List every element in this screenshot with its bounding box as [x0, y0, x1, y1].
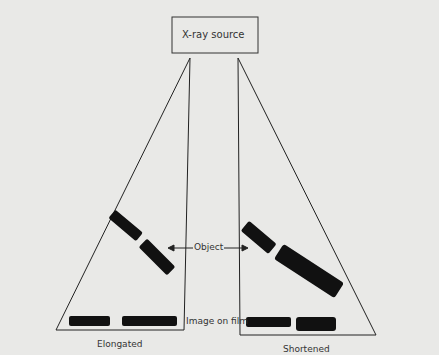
left-object: [108, 210, 175, 276]
object-label: Object: [194, 242, 223, 252]
xray-source-label: X-ray source: [182, 29, 245, 40]
left-film-image: [69, 316, 177, 326]
diagram-canvas: [0, 0, 439, 355]
right-beam-outline: [238, 58, 376, 335]
shortened-caption: Shortened: [283, 344, 330, 354]
image-on-film-label: Image on film: [186, 316, 248, 326]
right-object: [241, 221, 344, 298]
right-film-image: [246, 317, 336, 331]
elongated-caption: Elongated: [97, 339, 142, 349]
left-beam-outline: [56, 58, 190, 330]
